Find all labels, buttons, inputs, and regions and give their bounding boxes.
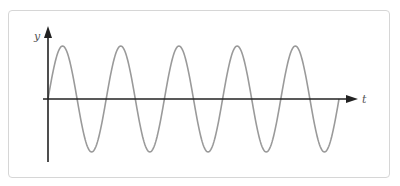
y-axis-arrow-icon [44,26,52,38]
t-axis-label: t [362,93,367,106]
sine-wave-diagram: t y [0,0,400,186]
t-axis-arrow-icon [346,95,358,103]
y-axis-label: y [33,30,41,43]
